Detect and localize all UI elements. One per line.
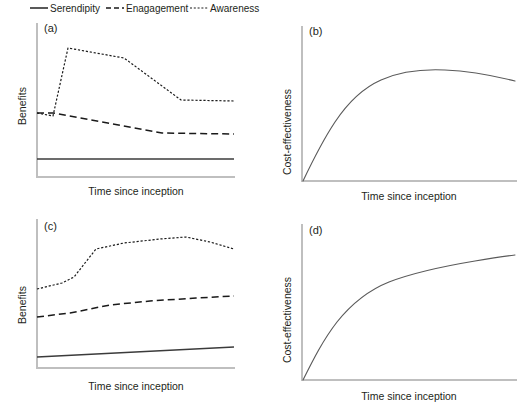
panel-b-tag: (b) <box>309 25 322 37</box>
chart-panel-b: (b) Cost-effectiveness Time since incept… <box>265 0 531 205</box>
panel-a-xlabel: Time since inception <box>88 185 183 197</box>
panel-c-ylabel: Benefits <box>16 286 28 324</box>
chart-panel-a: (a) Benefits Time since inception <box>0 0 265 200</box>
figure-panel-grid: (a) Benefits Time since inception Serend… <box>0 0 531 405</box>
panel-a-series-enagagement <box>37 113 234 134</box>
panel-b-series-cost-effectiveness <box>303 70 515 181</box>
panel-b-axes <box>302 26 517 181</box>
chart-panel-d: (d) Cost-effectiveness Time since incept… <box>265 208 531 405</box>
panel-d-ylabel: Cost-effectiveness <box>281 277 293 363</box>
panel-c-tag: (c) <box>44 220 57 232</box>
panel-a-ylabel: Benefits <box>16 87 28 125</box>
panel-b-xlabel: Time since inception <box>361 190 456 202</box>
panel-c-series-enagagement <box>37 296 234 317</box>
panel-b-ylabel: Cost-effectiveness <box>281 89 293 175</box>
panel-c-series-awareness <box>37 237 234 289</box>
panel-d-axes <box>302 224 517 380</box>
panel-a-tag: (a) <box>44 22 57 34</box>
panel-d-series-cost-effectiveness <box>303 255 515 380</box>
panel-c-series-serendipity <box>37 347 234 357</box>
panel-a-plot: (a) Benefits Time since inception <box>0 0 265 200</box>
panel-c-plot: (c) Benefits Time since inception <box>0 213 265 405</box>
panel-b-plot: (b) Cost-effectiveness Time since incept… <box>265 0 531 205</box>
panel-d-xlabel: Time since inception <box>361 390 456 402</box>
panel-d-plot: (d) Cost-effectiveness Time since incept… <box>265 208 531 405</box>
panel-c-xlabel: Time since inception <box>88 380 183 392</box>
panel-d-tag: (d) <box>309 224 322 236</box>
panel-a-series-awareness <box>37 48 234 116</box>
chart-panel-c: (c) Benefits Time since inception <box>0 213 265 405</box>
